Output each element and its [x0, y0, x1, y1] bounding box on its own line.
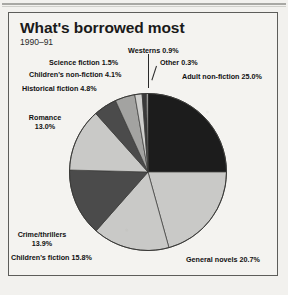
slice-label-romance: Romance 13.0%	[22, 113, 68, 131]
page-title: What's borrowed most	[20, 19, 184, 37]
leader-line-westerns	[148, 54, 149, 88]
slice-label-westerns: Westerns 0.9%	[128, 46, 179, 55]
top-divider-rule	[2, 3, 286, 5]
slice-label-childrens-non-fiction: Children's non-fiction 4.1%	[29, 70, 121, 79]
slice-label-historical-fiction: Historical fiction 4.8%	[22, 84, 97, 93]
pie-chart	[68, 92, 228, 252]
slice-label-childrens-fiction: Children's fiction 15.8%	[11, 253, 92, 262]
chart-page: What's borrowed most 1990–91 Westerns 0.…	[0, 0, 288, 295]
slice-label-crime-thrillers: Crime/thrillers 13.9%	[13, 230, 71, 248]
pie-slices	[69, 93, 226, 250]
slice-label-general-novels: General novels 20.7%	[186, 255, 260, 264]
pie-slice	[148, 94, 227, 173]
slice-label-science-fiction: Science fiction 1.5%	[49, 58, 118, 67]
top-divider-rule-secondary	[2, 6, 286, 7]
page-subtitle: 1990–91	[20, 37, 53, 47]
slice-label-other: Other 0.3%	[160, 58, 198, 67]
slice-label-adult-non-fiction: Adult non-fiction 25.0%	[182, 72, 262, 81]
pie-chart-svg	[68, 92, 228, 252]
